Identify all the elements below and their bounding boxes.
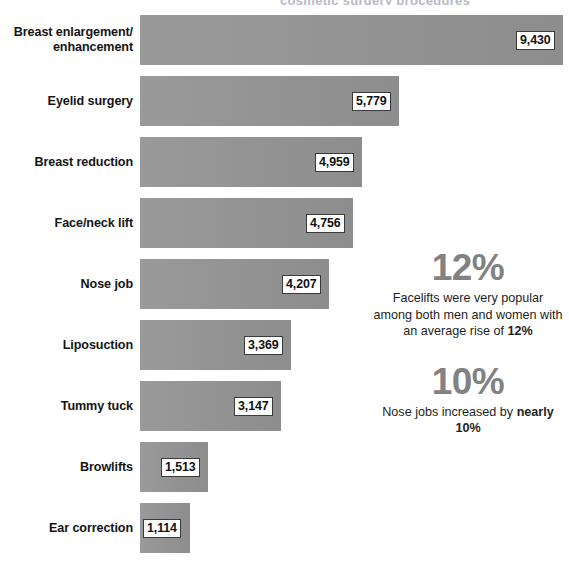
bar-value-label: 3,369	[244, 336, 283, 355]
callout-nosejobs-text: Nose jobs increased by nearly 10%	[372, 404, 564, 437]
bar-category-label: Nose job	[0, 277, 133, 292]
bar-category-label-line: Breast enlargement/	[0, 25, 133, 40]
bar-category-label-line: Tummy tuck	[0, 399, 133, 414]
callout-facelifts-text: Facelifts were very popular among both m…	[372, 290, 564, 340]
callout-facelifts-percent: 12%	[372, 248, 564, 287]
bar-category-label: Tummy tuck	[0, 399, 133, 414]
callout-nosejobs-text-main: Nose jobs increased by	[382, 405, 516, 419]
bar-row: Face/neck lift4,756	[0, 198, 569, 248]
bar-category-label-line: Ear correction	[0, 521, 133, 536]
bar-category-label: Face/neck lift	[0, 216, 133, 231]
bar-value-label: 5,779	[352, 92, 391, 111]
bar-category-label-line: Breast reduction	[0, 155, 133, 170]
bar-row: Ear correction1,114	[0, 503, 569, 553]
callout-panel: 12% Facelifts were very popular among bo…	[372, 248, 564, 445]
bar-value-label: 3,147	[234, 397, 273, 416]
bar-value-label: 4,959	[315, 153, 354, 172]
callout-nosejobs: 10% Nose jobs increased by nearly 10%	[372, 362, 564, 437]
callout-facelifts: 12% Facelifts were very popular among bo…	[372, 248, 564, 340]
callout-facelifts-text-main: Facelifts were very popular among both m…	[373, 291, 562, 338]
bar-category-label-line: enhancement	[0, 40, 133, 55]
bar-category-label: Liposuction	[0, 338, 133, 353]
bar-row: Breast reduction4,959	[0, 137, 569, 187]
bar	[140, 15, 563, 65]
bar-value-label: 4,207	[282, 275, 321, 294]
callout-nosejobs-percent: 10%	[372, 362, 564, 401]
bar-category-label: Breast enlargement/enhancement	[0, 25, 133, 55]
callout-facelifts-text-emphasis: 12%	[508, 324, 533, 338]
bar-row: Eyelid surgery5,779	[0, 76, 569, 126]
bar-value-label: 4,756	[306, 214, 345, 233]
bar-value-label: 1,114	[143, 519, 181, 538]
infographic-bar-chart: cosmetic surgery procedures Breast enlar…	[0, 0, 569, 584]
bar-category-label-line: Nose job	[0, 277, 133, 292]
bar-category-label: Breast reduction	[0, 155, 133, 170]
bar-value-label: 9,430	[516, 31, 555, 50]
bar-category-label-line: Face/neck lift	[0, 216, 133, 231]
bar-category-label-line: Liposuction	[0, 338, 133, 353]
bar-category-label-line: Browlifts	[0, 460, 133, 475]
bar-category-label-line: Eyelid surgery	[0, 94, 133, 109]
bar-row: Breast enlargement/enhancement9,430	[0, 15, 569, 65]
bar-row: Browlifts1,513	[0, 442, 569, 492]
bar-value-label: 1,513	[161, 458, 200, 477]
bar-category-label: Ear correction	[0, 521, 133, 536]
bar-category-label: Browlifts	[0, 460, 133, 475]
bar-category-label: Eyelid surgery	[0, 94, 133, 109]
